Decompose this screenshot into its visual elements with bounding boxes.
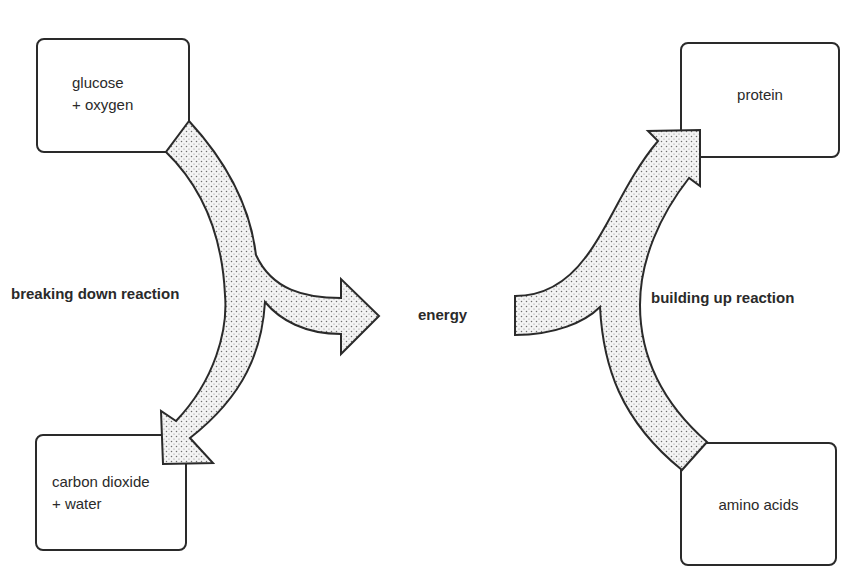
protein-label: protein [681,84,839,106]
oxygen-text: + oxygen [72,94,133,116]
carbon-dioxide-water-label: carbon dioxide + water [52,471,150,515]
building-up-reaction-label: building up reaction [651,289,794,306]
water-text: + water [52,493,150,515]
amino-acids-label: amino acids [681,494,836,516]
breaking-down-reaction-label: breaking down reaction [11,285,179,302]
carbon-dioxide-text: carbon dioxide [52,471,150,493]
breaking-down-arrow [161,121,379,464]
energy-label: energy [418,306,467,323]
glucose-oxygen-label: glucose + oxygen [72,72,133,116]
glucose-text: glucose [72,72,133,94]
